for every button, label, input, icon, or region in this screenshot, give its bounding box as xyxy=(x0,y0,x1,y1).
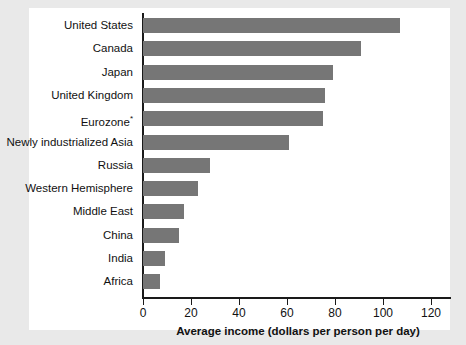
category-label: Africa xyxy=(0,270,137,293)
plot-area: United StatesCanadaJapanUnited KingdomEu… xyxy=(143,14,433,298)
category-label-wrap: India xyxy=(1,247,137,270)
bar-row: India xyxy=(143,247,433,270)
category-label-wrap: China xyxy=(1,224,137,247)
category-label-wrap: Western Hemisphere xyxy=(1,177,137,200)
bar-row: United States xyxy=(143,14,433,37)
x-axis-tick-label: 20 xyxy=(184,306,197,320)
bar xyxy=(143,41,361,56)
bar xyxy=(143,181,198,196)
category-label-wrap: United Kingdom xyxy=(1,84,137,107)
bar xyxy=(143,228,179,243)
category-label: Western Hemisphere xyxy=(0,177,137,200)
category-label: India xyxy=(0,247,137,270)
category-label: Canada xyxy=(0,37,137,60)
category-label: China xyxy=(0,224,137,247)
bar xyxy=(143,111,323,126)
category-label-wrap: Japan xyxy=(1,61,137,84)
x-axis-tick xyxy=(239,299,240,305)
bar xyxy=(143,158,210,173)
x-axis-tick xyxy=(191,299,192,305)
bar-row: Middle East xyxy=(143,200,433,223)
category-label: United States xyxy=(0,14,137,37)
x-axis-tick-label: 0 xyxy=(140,306,147,320)
x-axis-tick xyxy=(287,299,288,305)
category-label-wrap: Newly industrialized Asia xyxy=(1,131,137,154)
bar xyxy=(143,18,400,33)
footnote-asterisk: * xyxy=(130,114,133,123)
category-label-wrap: Africa xyxy=(1,270,137,293)
bar-row: Russia xyxy=(143,154,433,177)
category-label: United Kingdom xyxy=(0,84,137,107)
bar-row: Japan xyxy=(143,61,433,84)
x-axis-tick-label: 80 xyxy=(328,306,341,320)
bar xyxy=(143,135,289,150)
category-label-wrap: Eurozone* xyxy=(1,107,137,130)
bar xyxy=(143,65,333,80)
x-axis-tick xyxy=(335,299,336,305)
bar xyxy=(143,204,184,219)
bar-row: Eurozone* xyxy=(143,107,433,130)
category-label: Middle East xyxy=(0,200,137,223)
bar-row: Africa xyxy=(143,270,433,293)
bar xyxy=(143,251,165,266)
category-label: Newly industrialized Asia xyxy=(0,131,137,154)
category-label: Japan xyxy=(0,61,137,84)
category-label: Russia xyxy=(0,154,137,177)
x-axis-tick-label: 60 xyxy=(280,306,293,320)
bar xyxy=(143,88,325,103)
bar-row: Newly industrialized Asia xyxy=(143,131,433,154)
x-axis-tick-label: 40 xyxy=(232,306,245,320)
category-label-wrap: Middle East xyxy=(1,200,137,223)
bar-row: Western Hemisphere xyxy=(143,177,433,200)
category-label-wrap: Russia xyxy=(1,154,137,177)
category-label-wrap: Canada xyxy=(1,37,137,60)
x-axis-tick xyxy=(431,299,432,305)
x-axis-tick-label: 120 xyxy=(421,306,441,320)
category-label-wrap: United States xyxy=(1,14,137,37)
bar-row: Canada xyxy=(143,37,433,60)
bar xyxy=(143,274,160,289)
x-axis-tick xyxy=(383,299,384,305)
bar-row: United Kingdom xyxy=(143,84,433,107)
bar-chart-figure: United StatesCanadaJapanUnited KingdomEu… xyxy=(0,0,466,345)
bar-row: China xyxy=(143,224,433,247)
x-axis-tick-label: 100 xyxy=(373,306,393,320)
x-axis-tick xyxy=(143,299,144,305)
x-axis-title: Average income (dollars per person per d… xyxy=(143,325,453,337)
